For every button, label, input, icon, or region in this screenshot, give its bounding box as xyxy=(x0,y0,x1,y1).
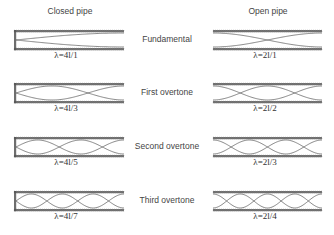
mode-label: Third overtone xyxy=(122,195,212,205)
open-wavelength-label: λ=2l/4 xyxy=(235,211,295,221)
closed-wavelength-label: λ=4l/7 xyxy=(36,211,96,221)
